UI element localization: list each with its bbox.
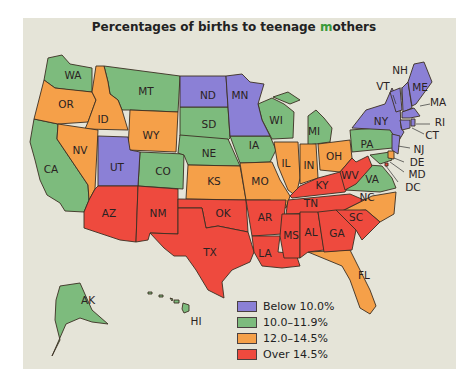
legend-label: 12.0–14.5%: [263, 332, 328, 345]
legend-swatch-orange: [237, 333, 257, 344]
legend-swatch-green: [237, 317, 257, 328]
label-wi: WI: [269, 114, 282, 126]
label-or: OR: [58, 98, 74, 110]
label-mt: MT: [138, 85, 154, 97]
label-wy: WY: [143, 129, 160, 141]
label-la: LA: [258, 247, 272, 259]
label-ok: OK: [215, 207, 231, 219]
label-fl: FL: [358, 269, 370, 281]
label-ia: IA: [249, 139, 260, 151]
label-de: DE: [410, 156, 425, 168]
label-nd: ND: [200, 89, 216, 101]
label-ri: RI: [435, 116, 445, 128]
legend-swatch-purple: [237, 301, 257, 312]
label-ut: UT: [110, 161, 125, 173]
legend-label: Over 14.5%: [263, 348, 328, 361]
label-az: AZ: [102, 207, 116, 219]
label-co: CO: [155, 165, 171, 177]
label-nm: NM: [150, 207, 167, 219]
label-pa: PA: [361, 138, 375, 150]
label-nj: NJ: [414, 143, 425, 155]
label-tx: TX: [202, 246, 217, 258]
label-wv: WV: [341, 169, 359, 181]
label-dc: DC: [405, 181, 420, 193]
label-mi: MI: [308, 125, 320, 137]
legend-item-12-14-5: 12.0–14.5%: [237, 330, 335, 346]
label-me: ME: [412, 81, 428, 93]
label-in: IN: [304, 159, 315, 171]
label-sd: SD: [202, 118, 217, 130]
label-id: ID: [97, 113, 108, 125]
label-al: AL: [304, 226, 317, 238]
legend-item-below-10: Below 10.0%: [237, 298, 335, 314]
label-ny: NY: [374, 115, 389, 127]
label-sc: SC: [349, 211, 363, 223]
label-tn: TN: [303, 197, 318, 209]
legend-item-over-14-5: Over 14.5%: [237, 346, 335, 362]
label-va: VA: [365, 173, 380, 185]
label-ga: GA: [329, 227, 345, 239]
legend-label: 10.0–11.9%: [263, 316, 328, 329]
label-ky: KY: [316, 179, 330, 191]
state-nj[interactable]: [392, 134, 400, 154]
state-ri[interactable]: [411, 119, 415, 126]
label-nv: NV: [72, 144, 88, 156]
label-oh: OH: [326, 150, 342, 162]
label-ct: CT: [425, 129, 439, 141]
label-vt: VT: [376, 80, 390, 92]
legend: Below 10.0% 10.0–11.9% 12.0–14.5% Over 1…: [237, 298, 335, 362]
label-ar: AR: [258, 211, 272, 223]
label-ks: KS: [207, 175, 221, 187]
label-wa: WA: [65, 69, 83, 81]
label-mo: MO: [251, 175, 268, 187]
label-ma: MA: [430, 96, 447, 108]
legend-swatch-red: [237, 349, 257, 360]
label-hi: HI: [191, 315, 202, 327]
label-ak: AK: [81, 294, 96, 306]
state-dc[interactable]: [385, 163, 388, 166]
us-map: WA OR CA NV ID MT WY UT CO AZ NM ND SD N…: [0, 0, 468, 386]
label-mn: MN: [232, 89, 249, 101]
label-ca: CA: [44, 163, 59, 175]
label-md: MD: [408, 168, 425, 180]
state-ct[interactable]: [400, 120, 410, 130]
label-il: IL: [282, 157, 291, 169]
legend-item-10-11-9: 10.0–11.9%: [237, 314, 335, 330]
label-ne: NE: [202, 147, 217, 159]
label-nh: NH: [392, 64, 408, 76]
label-nc: NC: [359, 191, 374, 203]
legend-label: Below 10.0%: [263, 300, 335, 313]
state-de[interactable]: [388, 151, 394, 159]
state-hi[interactable]: [148, 292, 189, 313]
label-ms: MS: [283, 229, 299, 241]
